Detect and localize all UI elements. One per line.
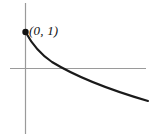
exponential-decay-curve: [26, 32, 149, 101]
figure-canvas: [0, 0, 151, 140]
marked-point-label: (0, 1): [29, 24, 58, 38]
marked-point-dot: [22, 29, 28, 35]
exponential-decay-figure: (0, 1): [0, 0, 151, 140]
